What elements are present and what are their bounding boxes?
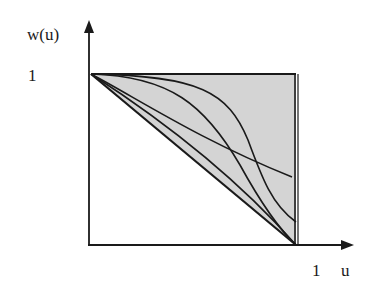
y-axis-label: w(u) <box>27 25 59 44</box>
weight-function-diagram: w(u) 1 1 u <box>0 0 368 290</box>
y-axis-arrow-icon <box>84 20 94 33</box>
x-tick-label: 1 <box>312 261 321 280</box>
x-axis-label: u <box>341 261 350 280</box>
y-tick-label: 1 <box>28 66 37 85</box>
x-axis-arrow-icon <box>341 240 354 250</box>
